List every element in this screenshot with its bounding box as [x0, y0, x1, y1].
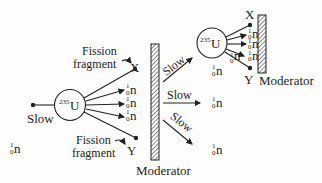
uranium-nucleus-right: 235 U — [197, 28, 227, 58]
slow-neutron-1: 1 0 n — [212, 63, 223, 78]
slow-neutron-paths: Slow Slow Slow — [160, 52, 200, 144]
svg-text:X: X — [245, 7, 255, 22]
slow-neutron-3: 1 0 n — [212, 142, 223, 157]
right-neutron-3: 1 0 n — [248, 48, 259, 63]
slow-label-1: Slow — [160, 52, 188, 78]
svg-text:n: n — [216, 95, 223, 110]
slow-label-2: Slow — [167, 88, 192, 102]
svg-text:X: X — [130, 60, 140, 75]
incoming-neutron-path — [31, 103, 54, 107]
fission-chain-diagram: Slow 1 0 n 235 U Fission fragment X 1 0 … — [0, 0, 322, 183]
svg-text:Moderator: Moderator — [259, 73, 315, 88]
svg-text:fragment: fragment — [72, 146, 116, 160]
incoming-neutron-symbol: 1 0 n — [10, 141, 21, 156]
right-neutron-4: 1 0 n — [230, 48, 241, 65]
svg-text:Y: Y — [127, 143, 137, 158]
svg-text:U: U — [211, 36, 221, 51]
fragment-dot-icon — [248, 66, 252, 70]
svg-text:Moderator: Moderator — [136, 163, 192, 178]
svg-text:Fission: Fission — [76, 133, 111, 147]
uranium-nucleus-left: 235 U — [55, 90, 86, 121]
svg-text:n: n — [14, 141, 21, 156]
svg-text:fragment: fragment — [73, 57, 117, 71]
svg-text:Fission: Fission — [82, 44, 117, 58]
svg-text:235: 235 — [200, 36, 211, 44]
svg-text:235: 235 — [59, 98, 70, 106]
emitted-neutron-3: 1 0 n — [126, 108, 137, 123]
slow-label-3: Slow — [168, 109, 196, 135]
moderator-slab-icon — [258, 15, 266, 73]
svg-text:n: n — [234, 48, 241, 63]
slow-neutron-2: 1 0 n — [212, 95, 223, 110]
incoming-slow-label: Slow — [27, 111, 54, 126]
svg-text:n: n — [216, 63, 223, 78]
moderator-right: Moderator — [258, 15, 315, 88]
svg-text:n: n — [216, 142, 223, 157]
fragment-dot-icon — [134, 136, 138, 140]
svg-text:U: U — [70, 98, 80, 113]
right-fission-products: X Y 1 0 n 1 0 n 1 0 n 1 0 n — [225, 7, 259, 87]
moderator-slab-icon — [151, 44, 159, 160]
svg-text:Y: Y — [244, 72, 254, 87]
svg-text:n: n — [130, 108, 137, 123]
